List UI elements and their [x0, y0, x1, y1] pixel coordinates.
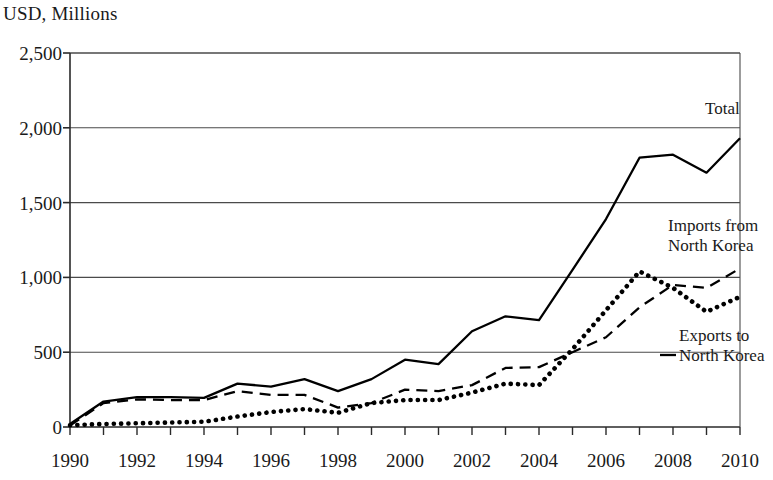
series-line-0 [70, 138, 740, 424]
series-line-2 [70, 268, 740, 425]
series-line-1 [70, 271, 740, 425]
x-tick-label: 2002 [453, 451, 491, 470]
x-tick-label: 2004 [520, 451, 558, 470]
series-label-imports-line1: Imports from [668, 216, 758, 236]
x-tick-label: 1992 [118, 451, 156, 470]
chart-container: USD, Millions 05001,0001,5002,0002,500 1… [0, 0, 773, 480]
x-tick-label: 2010 [721, 451, 759, 470]
series-label-imports-line2: North Korea [668, 236, 758, 256]
series-label-exports-line1: Exports to [679, 326, 764, 346]
x-tick-label: 2000 [386, 451, 424, 470]
x-tick-label: 1996 [252, 451, 290, 470]
x-tick-label: 2006 [587, 451, 625, 470]
gridlines [70, 53, 740, 352]
plot-area [0, 0, 773, 480]
x-axis-ticks [70, 427, 740, 435]
series-label-exports-line2: North Korea [679, 346, 764, 366]
axis-lines [63, 53, 740, 427]
series-label-exports: Exports to North Korea [679, 326, 764, 366]
series-label-total: Total [705, 99, 740, 119]
x-tick-label: 1990 [51, 451, 89, 470]
x-tick-label: 1994 [185, 451, 223, 470]
data-series [70, 138, 740, 425]
series-label-imports: Imports from North Korea [668, 216, 758, 256]
x-tick-label: 1998 [319, 451, 357, 470]
x-tick-label: 2008 [654, 451, 692, 470]
